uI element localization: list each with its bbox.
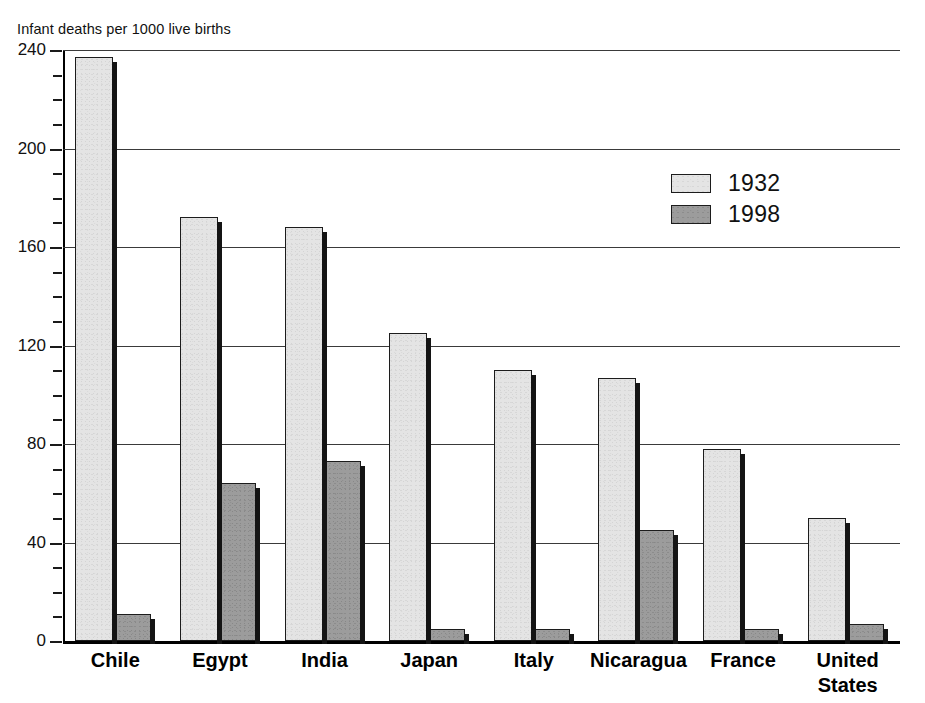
bar-india-1932: [285, 227, 323, 641]
y-tick-major: [50, 247, 62, 249]
y-tick-minor: [53, 99, 62, 101]
bar-shadow: [217, 222, 222, 644]
y-tick-major: [50, 444, 62, 446]
legend-label-1932: 1932: [728, 170, 780, 197]
bar-egypt-1932: [180, 217, 218, 641]
y-tick-minor: [53, 616, 62, 618]
y-axis-label: 240: [18, 40, 46, 60]
y-tick-minor: [53, 469, 62, 471]
bar-shadow: [255, 488, 260, 644]
y-tick-minor: [53, 567, 62, 569]
category-label-india: India: [272, 648, 377, 673]
bar-italy-1998: [532, 629, 570, 641]
bar-shadow: [322, 232, 327, 644]
y-tick-minor: [53, 272, 62, 274]
y-tick-major: [50, 50, 62, 52]
legend-item-1998: 1998: [671, 199, 780, 230]
y-tick-major: [50, 543, 62, 545]
y-tick-major: [50, 641, 62, 643]
y-tick-major: [50, 346, 62, 348]
y-tick-minor: [53, 124, 62, 126]
bar-japan-1998: [427, 629, 465, 641]
category-label-nicaragua: Nicaragua: [586, 648, 691, 673]
bar-shadow: [883, 629, 888, 644]
category-label-japan: Japan: [377, 648, 482, 673]
legend-swatch-1998: [671, 205, 711, 224]
bar-egypt-1998: [218, 483, 256, 641]
chart-legend: 1932 1998: [671, 168, 780, 230]
category-label-chile: Chile: [63, 648, 168, 673]
bar-italy-1932: [494, 370, 532, 641]
y-tick-minor: [53, 321, 62, 323]
bar-japan-1932: [389, 333, 427, 641]
y-tick-minor: [53, 222, 62, 224]
category-label-italy: Italy: [482, 648, 587, 673]
bar-nicaragua-1998: [636, 530, 674, 641]
legend-swatch-1932: [671, 174, 711, 193]
y-tick-minor: [53, 518, 62, 520]
category-label-united-states: United States: [795, 648, 900, 698]
y-tick-minor: [53, 198, 62, 200]
bar-shadow: [673, 535, 678, 644]
bar-shadow: [635, 383, 640, 644]
y-tick-minor: [53, 370, 62, 372]
y-tick-minor: [53, 296, 62, 298]
bar-nicaragua-1932: [598, 378, 636, 641]
y-tick-minor: [53, 493, 62, 495]
bar-united-states-1932: [808, 518, 846, 641]
category-label-france: France: [691, 648, 796, 673]
y-tick-minor: [53, 173, 62, 175]
y-axis-label: 120: [18, 336, 46, 356]
bar-shadow: [464, 634, 469, 644]
bar-shadow: [531, 375, 536, 644]
y-tick-minor: [53, 395, 62, 397]
y-tick-major: [50, 149, 62, 151]
y-axis-label: 200: [18, 139, 46, 159]
bar-india-1998: [323, 461, 361, 641]
gridline: [63, 149, 900, 150]
y-tick-minor: [53, 419, 62, 421]
y-axis-label: 0: [37, 631, 46, 651]
bar-united-states-1998: [846, 624, 884, 641]
y-axis-tick-labels: 04080120160200240: [0, 50, 46, 641]
y-axis-label: 80: [27, 434, 46, 454]
plot-area: [63, 50, 900, 641]
bar-france-1932: [703, 449, 741, 641]
bar-shadow: [740, 454, 745, 644]
legend-label-1998: 1998: [728, 201, 780, 228]
chart-container: Infant deaths per 1000 live births 04080…: [0, 0, 925, 703]
y-tick-minor: [53, 75, 62, 77]
bar-shadow: [569, 634, 574, 644]
y-axis-label: 40: [27, 533, 46, 553]
chart-title: Infant deaths per 1000 live births: [17, 21, 231, 37]
bar-chile-1998: [113, 614, 151, 641]
bar-shadow: [426, 338, 431, 644]
x-axis-category-labels: ChileEgyptIndiaJapanItalyNicaraguaFrance…: [63, 648, 900, 703]
legend-item-1932: 1932: [671, 168, 780, 199]
bar-shadow: [150, 619, 155, 644]
y-axis-label: 160: [18, 237, 46, 257]
bar-france-1998: [741, 629, 779, 641]
bar-chile-1932: [75, 57, 113, 641]
category-label-egypt: Egypt: [168, 648, 273, 673]
x-axis-baseline: [63, 641, 900, 644]
y-tick-minor: [53, 592, 62, 594]
bar-shadow: [112, 62, 117, 644]
bar-shadow: [845, 523, 850, 644]
bar-shadow: [360, 466, 365, 644]
gridline: [63, 50, 900, 51]
bar-shadow: [778, 634, 783, 644]
